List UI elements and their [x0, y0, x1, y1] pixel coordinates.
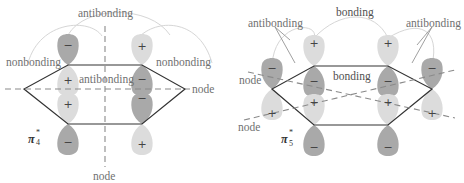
- sign-plus: +: [309, 96, 318, 109]
- sign-plus: +: [63, 98, 72, 111]
- svg-text:*: *: [289, 128, 293, 137]
- label-antibonding-right: antibonding: [406, 17, 461, 30]
- label-node-bottom: node: [238, 121, 260, 133]
- right-panel: + + − − − − + + + + − − bonding antibond…: [238, 6, 461, 156]
- label-antibonding-left: antibonding: [248, 17, 303, 30]
- orbital-label-pi5-star: π * 5: [281, 128, 293, 148]
- svg-text:π: π: [28, 132, 35, 146]
- sign-plus: +: [63, 74, 72, 87]
- label-antibonding-center: antibonding: [79, 73, 134, 86]
- sign-plus: +: [267, 107, 276, 120]
- sign-plus: +: [309, 37, 318, 50]
- label-node-horizontal: node: [192, 83, 214, 95]
- pointer-line: [275, 27, 295, 63]
- sign-minus: −: [63, 39, 72, 52]
- sign-minus: −: [383, 75, 392, 88]
- sign-minus: −: [309, 75, 318, 88]
- mo-diagram: − + + − + − − + antibonding nonbonding n…: [0, 0, 464, 183]
- sign-minus: −: [63, 136, 72, 149]
- sign-minus: −: [427, 62, 436, 75]
- sign-plus: +: [383, 37, 392, 50]
- sign-plus: +: [137, 40, 146, 53]
- sign-minus: −: [137, 73, 146, 86]
- label-antibonding-top: antibonding: [78, 7, 133, 20]
- left-panel: − + + − + − − + antibonding nonbonding n…: [5, 7, 214, 182]
- svg-text:π: π: [281, 132, 288, 146]
- label-nonbonding-right: nonbonding: [156, 56, 211, 69]
- svg-text:5: 5: [289, 139, 293, 148]
- svg-text:4: 4: [36, 138, 40, 147]
- arc-top: [314, 17, 388, 38]
- svg-text:*: *: [36, 128, 40, 137]
- label-node-left: node: [239, 74, 261, 86]
- label-nonbonding-left: nonbonding: [6, 56, 61, 69]
- sign-plus: +: [137, 138, 146, 151]
- sign-minus: −: [137, 92, 146, 105]
- label-bonding-center: bonding: [333, 70, 371, 83]
- sign-minus: −: [267, 62, 276, 75]
- label-bonding-top: bonding: [336, 6, 374, 19]
- sign-plus: +: [383, 96, 392, 109]
- pointer-line: [412, 27, 432, 63]
- orbital-label-pi4-star: π * 4: [28, 128, 40, 147]
- sign-plus: +: [427, 107, 436, 120]
- sign-minus: −: [383, 141, 392, 154]
- sign-minus: −: [309, 141, 318, 154]
- label-node-vertical: node: [93, 170, 115, 182]
